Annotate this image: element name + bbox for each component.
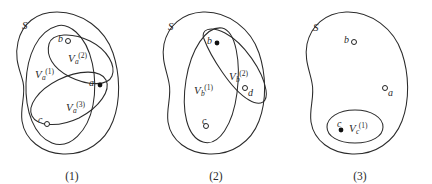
panel-3-graphics (288, 0, 432, 184)
region-vc1-base: V (349, 122, 356, 134)
panel-3-set-label: S (313, 22, 319, 33)
panel-1-point-label-b: b (58, 34, 63, 44)
point-marker-d (243, 86, 248, 91)
region-va3-sup: (3) (76, 100, 85, 109)
point-marker-a (98, 83, 103, 88)
point-marker-c (45, 122, 50, 127)
panel-1-set-label: S (22, 20, 28, 31)
point-marker-b (66, 39, 71, 44)
panel-1-caption: (1) (0, 170, 144, 182)
panel-1-region-label-va1: Va(1) (35, 68, 54, 82)
panel-3-point-label-a: a (388, 88, 393, 98)
region-vb2-base: V (229, 70, 236, 82)
panel-2-point-label-d: d (248, 88, 253, 98)
panel-1-point-label-c: c (38, 115, 42, 125)
panel-2-point-label-c: c (202, 116, 206, 126)
panel-3-point-label-b: b (344, 35, 349, 45)
diagram-panel-3: S b a c Vc(1) (3) (288, 0, 432, 184)
region-va3-base: V (66, 101, 73, 113)
panel-2-point-label-b: b (207, 36, 212, 46)
panel-3-caption: (3) (288, 170, 432, 182)
set-s-outline (163, 12, 264, 154)
point-marker-b (215, 41, 220, 46)
venn-diagram-figure: S b a c Va(1) Va(2) Va(3) (1) S b d c Vb… (0, 0, 432, 184)
panel-2-set-label: S (168, 21, 174, 32)
panel-2-region-label-vb2: Vb(2) (229, 70, 248, 84)
panel-3-point-label-c: c (337, 119, 341, 129)
region-vb1-base: V (194, 84, 201, 96)
region-va2-sup: (2) (78, 51, 87, 60)
panel-2-caption: (2) (144, 170, 288, 182)
region-vb2-sup: (2) (239, 69, 248, 78)
region-va2-base: V (68, 52, 75, 64)
panel-1-point-label-a: a (89, 78, 94, 88)
diagram-panel-1: S b a c Va(1) Va(2) Va(3) (1) (0, 0, 144, 184)
panel-1-region-label-va3: Va(3) (66, 101, 85, 115)
panel-2-region-label-vb1: Vb(1) (194, 84, 213, 98)
point-marker-a (383, 86, 388, 91)
region-va1-base: V (35, 68, 42, 80)
diagram-panel-2: S b d c Vb(1) Vb(2) (2) (144, 0, 288, 184)
panel-1-region-label-va2: Va(2) (68, 52, 87, 66)
point-marker-b (352, 40, 357, 45)
region-va1-sup: (1) (45, 67, 54, 76)
panel-3-region-label-vc1: Vc(1) (349, 122, 368, 136)
panel-2-graphics (144, 0, 288, 184)
region-vb1-sup: (1) (204, 83, 213, 92)
region-vc1-sup: (1) (359, 121, 368, 130)
